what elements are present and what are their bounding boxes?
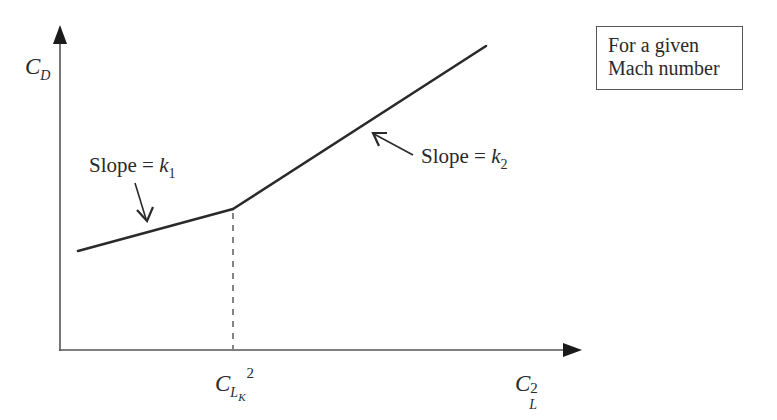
x-axis-subscript: L [529, 398, 537, 412]
note-line-2: Mach number [608, 57, 742, 80]
x-axis-label: C2L [515, 372, 542, 395]
slope-k2-pointer-arrow [373, 133, 413, 155]
y-axis-label: CD [25, 55, 50, 78]
x-axis-superscript: 2 [530, 381, 538, 396]
y-axis-arrowhead-icon [53, 25, 67, 44]
x-axis-arrowhead-icon [563, 343, 582, 357]
slope-k1-text: Slope = [89, 153, 159, 177]
condition-note-box: For a given Mach number [596, 26, 743, 90]
slope-k2-text: Slope = [421, 144, 491, 168]
breakpoint-subscript-letter: L [230, 385, 238, 400]
slope-k1-subscript: 1 [169, 166, 176, 181]
breakpoint-label: CLK2 [215, 372, 253, 395]
note-line-1: For a given [608, 34, 742, 57]
breakpoint-superscript: 2 [246, 365, 254, 381]
slope-k2-var: k [491, 144, 500, 168]
breakpoint-subsubscript: K [238, 391, 245, 403]
breakpoint-subscript: LK [230, 385, 245, 400]
segment-k2 [233, 46, 486, 209]
y-axis-subscript: D [40, 68, 50, 83]
slope-k2-label: Slope = k2 [421, 146, 508, 167]
segment-k1 [78, 209, 233, 251]
y-axis-symbol: C [25, 54, 40, 79]
slope-k2-subscript: 2 [501, 157, 508, 172]
breakpoint-symbol: C [215, 371, 230, 396]
slope-k1-var: k [159, 153, 168, 177]
slope-k1-pointer-arrow [135, 183, 153, 221]
slope-k1-label: Slope = k1 [89, 155, 176, 176]
x-axis-symbol: C [515, 371, 530, 396]
